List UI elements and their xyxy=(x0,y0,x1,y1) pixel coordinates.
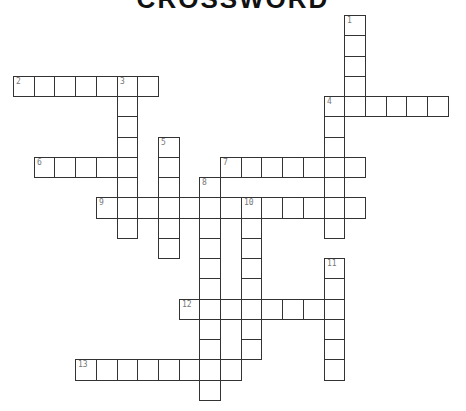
crossword-cell[interactable] xyxy=(96,76,118,97)
crossword-cell[interactable] xyxy=(324,319,345,340)
crossword-cell[interactable] xyxy=(241,299,262,320)
crossword-cell[interactable] xyxy=(117,116,138,138)
crossword-cell[interactable] xyxy=(199,218,221,239)
crossword-cell[interactable] xyxy=(158,157,180,178)
crossword-cell[interactable]: 13 xyxy=(75,359,97,381)
crossword-cell[interactable] xyxy=(137,76,159,97)
crossword-cell[interactable]: 6 xyxy=(34,157,55,178)
crossword-cell[interactable] xyxy=(199,258,221,279)
crossword-cell[interactable] xyxy=(158,197,180,219)
crossword-cell[interactable] xyxy=(137,197,159,219)
crossword-cell[interactable] xyxy=(406,96,428,117)
crossword-cell[interactable] xyxy=(158,359,180,381)
crossword-cell[interactable] xyxy=(324,197,345,219)
crossword-cell[interactable] xyxy=(344,35,366,57)
crossword-cell[interactable] xyxy=(282,157,304,178)
crossword-cell[interactable]: 9 xyxy=(96,197,118,219)
crossword-cell[interactable] xyxy=(241,218,262,239)
crossword-cell[interactable] xyxy=(261,157,283,178)
crossword-cell[interactable] xyxy=(241,238,262,259)
crossword-cell[interactable] xyxy=(75,157,97,178)
crossword-cell[interactable] xyxy=(427,96,449,117)
crossword-cell[interactable] xyxy=(199,278,221,300)
crossword-cell[interactable] xyxy=(179,197,200,219)
crossword-cell[interactable] xyxy=(241,278,262,300)
crossword-cell[interactable] xyxy=(199,339,221,360)
clue-number: 5 xyxy=(161,138,166,147)
crossword-cell[interactable] xyxy=(220,359,242,381)
crossword-cell[interactable] xyxy=(241,157,262,178)
crossword-cell[interactable] xyxy=(117,96,138,117)
crossword-cell[interactable] xyxy=(386,96,407,117)
crossword-cell[interactable] xyxy=(241,319,262,340)
crossword-cell[interactable] xyxy=(261,299,283,320)
crossword-cell[interactable] xyxy=(199,299,221,320)
clue-number: 6 xyxy=(37,158,42,167)
crossword-cell[interactable] xyxy=(344,197,366,219)
crossword-cell[interactable] xyxy=(241,339,262,360)
clue-number: 13 xyxy=(78,360,88,369)
crossword-cell[interactable]: 1 xyxy=(344,15,366,36)
crossword-cell[interactable] xyxy=(344,56,366,77)
clue-number: 12 xyxy=(182,300,192,309)
crossword-cell[interactable] xyxy=(324,177,345,198)
crossword-cell[interactable]: 7 xyxy=(220,157,242,178)
crossword-cell[interactable] xyxy=(303,157,325,178)
crossword-cell[interactable]: 5 xyxy=(158,137,180,158)
crossword-cell[interactable] xyxy=(117,218,138,239)
crossword-cell[interactable] xyxy=(158,218,180,239)
crossword-cell[interactable] xyxy=(199,359,221,381)
crossword-cell[interactable] xyxy=(54,157,76,178)
crossword-cell[interactable] xyxy=(261,197,283,219)
crossword-cell[interactable] xyxy=(199,197,221,219)
crossword-cell[interactable] xyxy=(324,299,345,320)
clue-number: 1 xyxy=(347,16,352,25)
clue-number: 3 xyxy=(120,77,125,86)
crossword-cell[interactable] xyxy=(158,238,180,259)
crossword-cell[interactable] xyxy=(117,197,138,219)
crossword-cell[interactable] xyxy=(324,137,345,158)
crossword-cell[interactable] xyxy=(344,76,366,97)
crossword-cell[interactable] xyxy=(54,76,76,97)
crossword-cell[interactable] xyxy=(324,359,345,381)
crossword-cell[interactable] xyxy=(117,137,138,158)
crossword-cell[interactable] xyxy=(303,197,325,219)
crossword-cell[interactable] xyxy=(324,218,345,239)
crossword-cell[interactable]: 10 xyxy=(241,197,262,219)
crossword-cell[interactable] xyxy=(282,299,304,320)
crossword-cell[interactable] xyxy=(96,359,118,381)
crossword-cell[interactable] xyxy=(344,96,366,117)
crossword-cell[interactable] xyxy=(220,299,242,320)
crossword-cell[interactable] xyxy=(241,258,262,279)
crossword-cell[interactable] xyxy=(75,76,97,97)
crossword-cell[interactable] xyxy=(199,380,221,401)
crossword-cell[interactable]: 12 xyxy=(179,299,200,320)
crossword-cell[interactable] xyxy=(365,96,387,117)
clue-number: 7 xyxy=(223,158,228,167)
crossword-cell[interactable] xyxy=(117,359,138,381)
crossword-cell[interactable] xyxy=(303,299,325,320)
clue-number: 9 xyxy=(99,198,104,207)
crossword-cell[interactable] xyxy=(34,76,55,97)
crossword-cell[interactable] xyxy=(137,359,159,381)
crossword-cell[interactable] xyxy=(158,177,180,198)
crossword-cell[interactable] xyxy=(117,177,138,198)
crossword-cell[interactable] xyxy=(199,319,221,340)
crossword-cell[interactable]: 8 xyxy=(199,177,221,198)
crossword-cell[interactable] xyxy=(282,197,304,219)
crossword-cell[interactable] xyxy=(117,157,138,178)
crossword-cell[interactable] xyxy=(179,359,200,381)
crossword-cell[interactable]: 11 xyxy=(324,258,345,279)
crossword-cell[interactable] xyxy=(324,116,345,138)
crossword-cell[interactable] xyxy=(220,197,242,219)
crossword-grid: 12345678910111213 xyxy=(0,0,466,411)
crossword-cell[interactable]: 2 xyxy=(13,76,35,97)
crossword-cell[interactable]: 4 xyxy=(324,96,345,117)
crossword-cell[interactable] xyxy=(199,238,221,259)
crossword-cell[interactable] xyxy=(324,339,345,360)
crossword-cell[interactable] xyxy=(96,157,118,178)
crossword-cell[interactable] xyxy=(344,157,366,178)
crossword-cell[interactable] xyxy=(324,157,345,178)
crossword-cell[interactable] xyxy=(324,278,345,300)
crossword-cell[interactable]: 3 xyxy=(117,76,138,97)
